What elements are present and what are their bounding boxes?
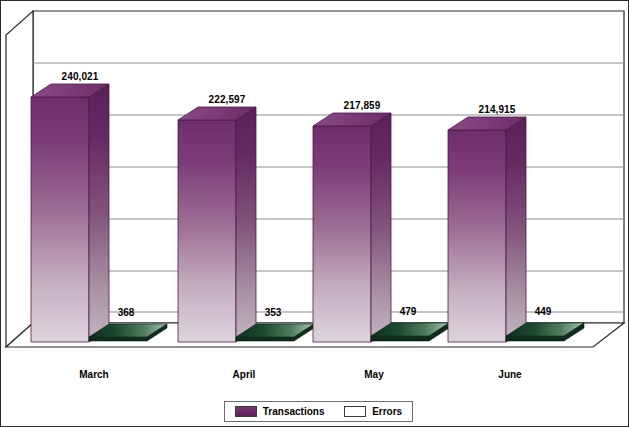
legend-entry-errors[interactable]: Errors — [344, 406, 402, 417]
value-label-errors-may: 479 — [400, 306, 417, 317]
chart-canvas — [0, 0, 629, 427]
value-label-errors-march: 368 — [118, 307, 135, 318]
legend-label-transactions: Transactions — [263, 406, 325, 417]
value-label-transactions-may: 217,859 — [344, 100, 381, 111]
value-label-transactions-june: 214,915 — [479, 104, 516, 115]
category-label-may: May — [364, 369, 383, 380]
plot-left-wall — [6, 11, 33, 347]
bar-transactions-june — [448, 117, 526, 342]
bar-transactions-march — [31, 84, 109, 342]
value-label-transactions-march: 240,021 — [62, 71, 99, 82]
category-label-april: April — [233, 369, 256, 380]
category-label-march: March — [79, 369, 108, 380]
bar-transactions-april — [178, 107, 256, 342]
legend-label-errors: Errors — [372, 406, 402, 417]
legend-entry-transactions[interactable]: Transactions — [235, 406, 325, 417]
transactions-swatch-icon — [235, 406, 257, 417]
chart-legend: Transactions Errors — [224, 401, 413, 422]
value-label-transactions-april: 222,597 — [209, 94, 246, 105]
value-label-errors-june: 449 — [535, 306, 552, 317]
value-label-errors-april: 353 — [265, 307, 282, 318]
bar-chart: 240,021 222,597 217,859 214,915 368 353 … — [0, 0, 629, 427]
errors-swatch-icon — [344, 406, 366, 417]
category-label-june: June — [498, 369, 521, 380]
bar-transactions-may — [313, 113, 391, 342]
